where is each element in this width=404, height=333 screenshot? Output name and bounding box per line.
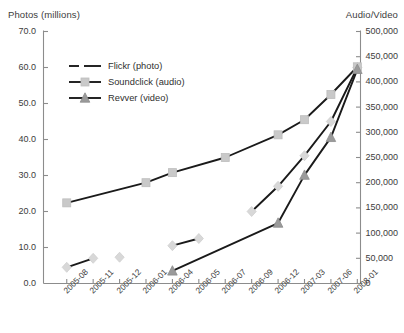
- right-tick-label: 200,000: [366, 178, 399, 187]
- diamond-marker: [89, 253, 98, 263]
- left-tick-label: 20.0: [0, 207, 36, 216]
- right-tick-label: 350,000: [366, 103, 399, 112]
- right-tick-label: 100,000: [366, 229, 399, 238]
- left-tick-label: 30.0: [0, 171, 36, 180]
- square-marker: [68, 76, 102, 88]
- left-tick-label: 40.0: [0, 135, 36, 144]
- square-marker: [274, 131, 282, 139]
- left-tick-label: 60.0: [0, 63, 36, 72]
- right-tick-label: 300,000: [366, 128, 399, 137]
- square-marker: [300, 116, 308, 124]
- right-tick-label: 400,000: [366, 77, 399, 86]
- diamond-marker: [62, 262, 71, 272]
- right-tick-label: 150,000: [366, 203, 399, 212]
- chart-legend: Flickr (photo)Soundclick (audio)Revver (…: [68, 58, 184, 106]
- legend-item-label: Soundclick (audio): [108, 77, 184, 87]
- right-tick-label: 500,000: [366, 27, 399, 36]
- right-tick-label: 250,000: [366, 153, 399, 162]
- triangle-marker: [68, 92, 102, 104]
- legend-item-label: Revver (video): [108, 93, 168, 103]
- square-marker: [81, 78, 89, 86]
- diamond-marker: [168, 241, 177, 251]
- right-tick-label: 50,000: [366, 254, 394, 263]
- legend-item-label: Flickr (photo): [108, 61, 162, 71]
- legend-item-3: Revver (video): [68, 90, 184, 105]
- square-marker: [168, 169, 176, 177]
- square-marker: [327, 91, 335, 99]
- legend-item-1: Flickr (photo): [68, 58, 184, 73]
- left-tick-label: 50.0: [0, 99, 36, 108]
- left-tick-label: 70.0: [0, 27, 36, 36]
- chart-container: Photos (millions) Audio/Video 70.060.050…: [0, 0, 404, 333]
- diamond-marker: [68, 60, 102, 72]
- diamond-marker: [194, 234, 203, 244]
- triangle-marker: [273, 218, 283, 227]
- right-tick-label: 450,000: [366, 52, 399, 61]
- left-tick-label: 10.0: [0, 243, 36, 252]
- triangle-marker: [326, 132, 336, 141]
- square-marker: [142, 179, 150, 187]
- left-tick-label: 0.0: [0, 279, 36, 288]
- diamond-marker: [115, 252, 124, 262]
- square-marker: [63, 199, 71, 207]
- square-marker: [221, 154, 229, 162]
- legend-item-2: Soundclick (audio): [68, 74, 184, 89]
